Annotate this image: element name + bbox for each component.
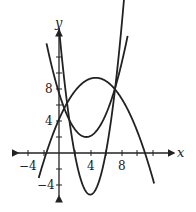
tick-x-8: 8 <box>118 159 126 173</box>
tick-y-4: 4 <box>45 114 53 128</box>
chart: −4 4 8 8 4 −4 x y <box>0 0 196 212</box>
x-axis-label: x <box>177 145 185 160</box>
tick-x-neg4: −4 <box>19 159 37 173</box>
plot-area: −4 4 8 8 4 −4 x y <box>0 0 196 212</box>
tick-y-neg4: −4 <box>37 178 55 192</box>
tick-x-4: 4 <box>87 159 95 173</box>
y-axis-label: y <box>54 15 63 30</box>
tick-y-8: 8 <box>45 82 53 96</box>
